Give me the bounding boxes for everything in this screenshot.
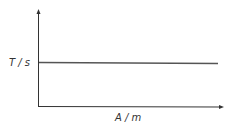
x-axis [38, 105, 224, 109]
x-axis-arrow-icon [219, 105, 224, 109]
y-axis-arrow-icon [37, 9, 41, 14]
chart: T / s A / m [0, 0, 230, 130]
y-axis [37, 9, 41, 107]
y-axis-label: T / s [9, 57, 30, 68]
data-line [39, 63, 218, 64]
x-axis-label: A / m [114, 112, 142, 123]
